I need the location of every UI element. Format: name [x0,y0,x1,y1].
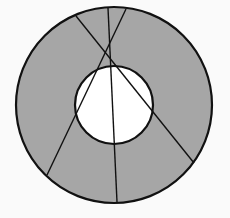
annulus-diagram [0,0,230,218]
inner-circle [75,66,153,144]
